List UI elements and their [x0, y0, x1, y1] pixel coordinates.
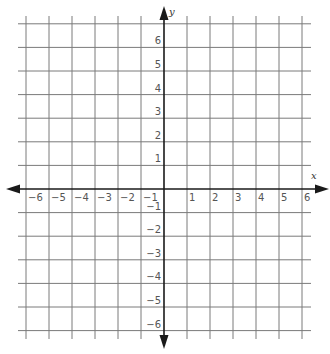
- x-axis-right-arrow-icon: [315, 185, 329, 194]
- coordinate-plane: x y −6−5−4−3−2−1123456 654321−1−2−3−4−5−…: [0, 0, 330, 354]
- y-tick-label: 5: [155, 59, 161, 70]
- y-tick-label: −6: [146, 319, 161, 330]
- x-tick-label: −3: [97, 192, 112, 203]
- axes: x y: [6, 6, 329, 349]
- x-tick-label: 4: [258, 192, 264, 203]
- x-tick-label: 5: [281, 192, 287, 203]
- x-tick-label: 1: [189, 192, 195, 203]
- y-tick-label: 4: [155, 83, 161, 94]
- x-tick-label: 3: [235, 192, 241, 203]
- y-axis-up-arrow-icon: [160, 6, 169, 20]
- y-tick-label: −1: [146, 201, 161, 212]
- x-tick-label: −4: [74, 192, 89, 203]
- x-tick-labels: −6−5−4−3−2−1123456: [28, 192, 310, 203]
- x-tick-label: −6: [28, 192, 43, 203]
- x-axis-left-arrow-icon: [6, 185, 20, 194]
- y-tick-label: −4: [146, 271, 161, 282]
- y-tick-label: 2: [155, 130, 161, 141]
- x-axis-label: x: [311, 170, 317, 181]
- y-tick-label: 3: [155, 106, 161, 117]
- y-tick-label: 1: [155, 153, 161, 164]
- y-tick-label: −5: [146, 295, 161, 306]
- y-tick-label: −3: [146, 248, 161, 259]
- x-tick-label: 2: [212, 192, 218, 203]
- y-tick-label: −2: [146, 224, 161, 235]
- x-tick-label: −2: [120, 192, 135, 203]
- y-axis-down-arrow-icon: [160, 335, 169, 349]
- x-tick-label: 6: [304, 192, 310, 203]
- y-axis-label: y: [168, 6, 175, 17]
- y-tick-labels: 654321−1−2−3−4−5−6: [146, 35, 161, 329]
- x-tick-label: −5: [51, 192, 66, 203]
- y-tick-label: 6: [155, 35, 161, 46]
